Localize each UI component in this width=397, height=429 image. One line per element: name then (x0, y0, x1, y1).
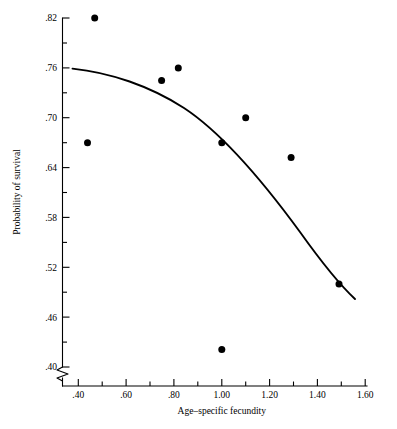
y-axis: .82 .76 .70 .64 .58 .52 .46 .40 Probabil… (12, 13, 70, 386)
y-tick-label-058: .58 (45, 213, 57, 223)
data-point (288, 154, 295, 161)
scatter-plot: .82 .76 .70 .64 .58 .52 .46 .40 Probabil… (0, 0, 397, 429)
figure-container: .82 .76 .70 .64 .58 .52 .46 .40 Probabil… (0, 0, 397, 429)
y-axis-title: Probability of survival (12, 149, 22, 235)
x-tick-label-040: .40 (72, 390, 84, 400)
x-tick-label-160: 1.60 (357, 390, 374, 400)
x-axis-title: Age–specific fecundity (178, 406, 267, 416)
x-tick-label-100: 1.00 (213, 390, 230, 400)
fitted-curve (73, 69, 356, 299)
data-point (91, 15, 98, 22)
y-tick-label-064: .64 (45, 163, 57, 173)
y-tick-label-052: .52 (45, 263, 57, 273)
x-tick-label-120: 1.20 (261, 390, 278, 400)
y-tick-label-040: .40 (45, 362, 57, 372)
y-minor-ticks (63, 43, 68, 342)
data-point (218, 139, 225, 146)
x-major-ticks (78, 379, 365, 386)
data-points (84, 15, 343, 353)
y-tick-label-076: .76 (45, 63, 57, 73)
x-axis: .40 .60 .80 1.00 1.20 1.40 1.60 Age–spec… (63, 379, 374, 416)
x-tick-label-060: .60 (120, 390, 132, 400)
data-point (158, 77, 165, 84)
data-point (175, 64, 182, 71)
x-tick-label-080: .80 (168, 390, 180, 400)
y-tick-label-082: .82 (45, 13, 57, 23)
data-point (242, 114, 249, 121)
data-point (218, 346, 225, 353)
data-point (84, 139, 91, 146)
data-point (336, 281, 343, 288)
y-tick-label-070: .70 (45, 113, 57, 123)
x-tick-label-140: 1.40 (309, 390, 326, 400)
y-tick-label-046: .46 (45, 313, 57, 323)
